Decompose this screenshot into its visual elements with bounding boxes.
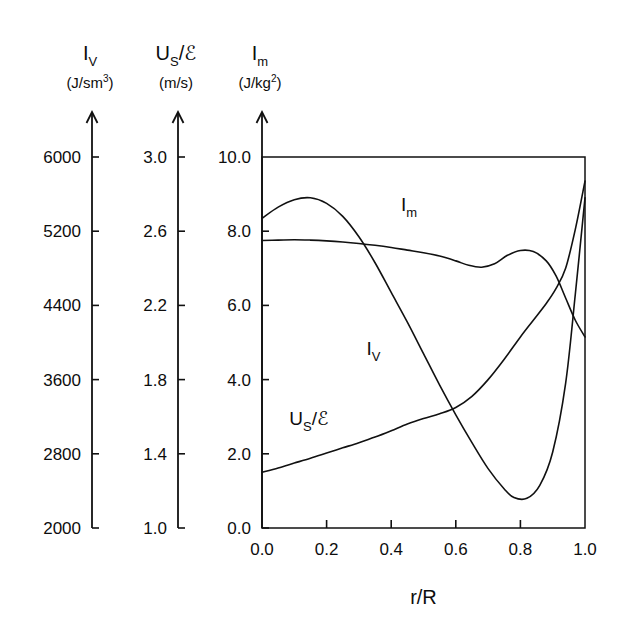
axis-title-us: US/ℰ bbox=[156, 42, 197, 69]
axis-us: 3.02.62.21.81.41.0US/ℰ(m/s) bbox=[143, 42, 196, 538]
curve-label-im: Im bbox=[401, 194, 417, 220]
axis-im: 10.08.06.04.02.00.0Im(J/kg2) bbox=[218, 42, 282, 538]
curve-label-us: US/ℰ bbox=[289, 408, 328, 434]
plot-frame bbox=[262, 157, 585, 528]
tick-label-iv-2: 4400 bbox=[43, 296, 81, 315]
curve-i-v bbox=[262, 198, 585, 500]
tick-label-im-1: 8.0 bbox=[227, 222, 251, 241]
axis-units-iv: (J/sm3) bbox=[66, 73, 113, 91]
tick-label-im-4: 2.0 bbox=[227, 445, 251, 464]
tick-label-iv-3: 3600 bbox=[43, 371, 81, 390]
tick-label-us-1: 2.6 bbox=[143, 222, 167, 241]
curve-i-m bbox=[262, 240, 585, 337]
tick-label-iv-4: 2800 bbox=[43, 445, 81, 464]
curve-label-iv: IV bbox=[366, 338, 380, 364]
tick-label-im-3: 4.0 bbox=[227, 371, 251, 390]
tick-label-iv-5: 2000 bbox=[43, 519, 81, 538]
axis-iv: 600052004400360028002000IV(J/sm3) bbox=[43, 42, 113, 538]
tick-label-us-5: 1.0 bbox=[143, 519, 167, 538]
tick-label-us-3: 1.8 bbox=[143, 371, 167, 390]
xtick-label-2: 0.4 bbox=[379, 540, 403, 559]
xtick-label-4: 0.8 bbox=[509, 540, 533, 559]
x-axis-label: r/R bbox=[410, 586, 437, 608]
tick-label-iv-1: 5200 bbox=[43, 222, 81, 241]
axis-units-im: (J/kg2) bbox=[238, 73, 281, 91]
tick-label-us-2: 2.2 bbox=[143, 296, 167, 315]
axis-units-us: (m/s) bbox=[159, 74, 193, 91]
xtick-label-0: 0.0 bbox=[250, 540, 274, 559]
axis-title-im: Im bbox=[252, 42, 268, 69]
tick-label-us-4: 1.4 bbox=[143, 445, 167, 464]
tick-label-im-5: 0.0 bbox=[227, 519, 251, 538]
triple-axis-line-chart: 600052004400360028002000IV(J/sm3)3.02.62… bbox=[0, 0, 626, 637]
tick-label-im-2: 6.0 bbox=[227, 296, 251, 315]
xtick-label-3: 0.6 bbox=[444, 540, 468, 559]
tick-label-iv-0: 6000 bbox=[43, 148, 81, 167]
tick-label-im-0: 10.0 bbox=[218, 148, 251, 167]
figure-canvas: 600052004400360028002000IV(J/sm3)3.02.62… bbox=[0, 0, 626, 637]
tick-label-us-0: 3.0 bbox=[143, 148, 167, 167]
xtick-label-1: 0.2 bbox=[315, 540, 339, 559]
xtick-label-5: 1.0 bbox=[573, 540, 597, 559]
axis-title-iv: IV bbox=[83, 42, 98, 69]
